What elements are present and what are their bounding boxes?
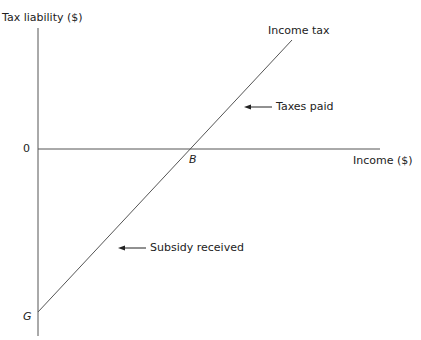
- diagram: Tax liability ($) Income tax Taxes paid …: [0, 0, 421, 340]
- income-tax-label: Income tax: [268, 24, 330, 37]
- y-axis-label: Tax liability ($): [2, 11, 83, 24]
- taxes-paid-label: Taxes paid: [276, 100, 334, 113]
- point-b-label: B: [189, 153, 197, 166]
- taxes-paid-arrow-icon: [244, 105, 272, 110]
- zero-label: 0: [23, 142, 30, 155]
- subsidy-arrow-icon: [118, 246, 146, 251]
- x-axis-label: Income ($): [353, 154, 413, 167]
- point-g-label: G: [23, 310, 32, 323]
- income-tax-line: [38, 40, 292, 312]
- diagram-graphics: [0, 0, 421, 340]
- subsidy-label: Subsidy received: [150, 241, 244, 254]
